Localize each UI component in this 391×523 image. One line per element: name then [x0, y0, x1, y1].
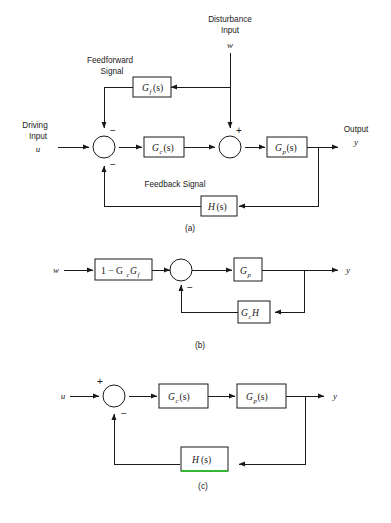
- disturbance-input-variable: w: [227, 40, 233, 50]
- block-gp-c-main: G: [246, 391, 253, 402]
- driving-input-label-line1: Driving: [22, 121, 48, 130]
- block-h-a-main: H: [207, 201, 216, 212]
- diagram-c-input-variable: u: [61, 391, 66, 401]
- block-gc-a: G c (s): [144, 137, 184, 157]
- block-gp-c: G p (s): [237, 384, 286, 408]
- block-one-minus-gcgf: 1 − G c G f: [95, 259, 152, 280]
- wire-gf-to-junction1: [104, 87, 133, 128]
- block-gp-a: G p (s): [267, 137, 307, 157]
- caption-a: (a): [185, 223, 195, 233]
- block-one-minus-gcgf-text2: G: [130, 265, 137, 276]
- block-gp-b-sub: p: [247, 271, 252, 278]
- summing-junction-c1-circle: [103, 385, 125, 407]
- block-gch-arg: H: [251, 307, 260, 318]
- block-gc-c: G c (s): [159, 384, 208, 408]
- summing-junction-a2-circle: [219, 136, 241, 158]
- summing-junction-c1-sign-minus: −: [121, 408, 127, 419]
- disturbance-input-label-line1: Disturbance: [208, 15, 252, 24]
- block-gc-c-main: G: [168, 391, 175, 402]
- driving-input-label-line2: Input: [29, 132, 48, 141]
- diagram-b-input-variable: w: [53, 265, 59, 275]
- summing-junction-c1-sign-plus: +: [97, 376, 103, 387]
- diagram-c: u y G c (s) G p (s) H (s): [61, 376, 337, 491]
- summing-junction-c1: + −: [97, 376, 127, 419]
- figure-canvas: Disturbance Input w Feedforward Signal D…: [0, 0, 391, 523]
- block-diagram-figure: Disturbance Input w Feedforward Signal D…: [0, 0, 391, 523]
- block-gf-arg: (s): [153, 82, 163, 94]
- block-h-a-arg: (s): [217, 201, 227, 213]
- block-gf: G f (s): [133, 77, 171, 97]
- block-gc-c-sub: c: [176, 397, 179, 404]
- disturbance-input-label-line2: Input: [221, 26, 240, 35]
- block-one-minus-gcgf-text1: 1 − G: [101, 265, 123, 276]
- block-gp-b: G p: [234, 258, 262, 281]
- driving-input-variable: u: [36, 144, 41, 154]
- block-gf-rect: [133, 77, 171, 97]
- summing-junction-a1: − −: [93, 125, 116, 170]
- summing-junction-a1-sign-bottom: −: [110, 159, 116, 170]
- summing-junction-a1-sign-top: −: [110, 125, 116, 136]
- feedforward-signal-label-line2: Signal: [101, 67, 124, 76]
- summing-junction-b1-circle: [170, 259, 192, 281]
- block-gp-c-arg: (s): [258, 391, 268, 403]
- diagram-b: w y 1 − G c G f G p G c H: [53, 258, 350, 350]
- summing-junction-a1-circle: [93, 136, 115, 158]
- diagram-c-output-variable: y: [332, 391, 337, 401]
- feedforward-signal-label-line1: Feedforward: [87, 56, 133, 65]
- block-h-c: H (s): [181, 447, 228, 471]
- block-h-c-arg: (s): [201, 454, 211, 466]
- block-gc-a-main: G: [152, 142, 159, 153]
- block-gp-a-main: G: [275, 142, 282, 153]
- summing-junction-b1-sign: −: [187, 282, 193, 293]
- block-gc-c-arg: (s): [180, 391, 190, 403]
- caption-b: (b): [195, 340, 205, 350]
- block-h-c-main: H: [191, 454, 200, 465]
- caption-c: (c): [198, 481, 208, 491]
- block-gc-a-sub: c: [160, 148, 163, 155]
- block-gf-main: G: [142, 82, 149, 93]
- block-gp-a-arg: (s): [287, 142, 297, 154]
- block-gp-b-main: G: [240, 265, 247, 276]
- diagram-b-output-variable: y: [345, 265, 350, 275]
- block-gch-main: G: [241, 307, 248, 318]
- summing-junction-a2-sign: +: [236, 125, 242, 136]
- output-variable: y: [353, 137, 358, 147]
- wire-c-h-to-junction: [114, 414, 180, 464]
- block-gch: G c H: [238, 301, 270, 323]
- diagram-a: Disturbance Input w Feedforward Signal D…: [22, 15, 369, 233]
- feedback-signal-label: Feedback Signal: [145, 180, 206, 189]
- block-gp-b-rect: [234, 258, 262, 281]
- block-h-a: H (s): [201, 196, 237, 216]
- summing-junction-a2: +: [219, 125, 242, 158]
- wire-b-y-to-gch: [275, 270, 304, 312]
- output-label: Output: [344, 125, 369, 134]
- block-gc-a-arg: (s): [164, 142, 174, 154]
